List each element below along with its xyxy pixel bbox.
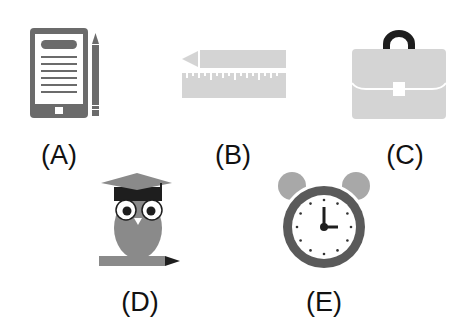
label-d: (D) — [110, 289, 170, 316]
pencil-and-ruler-icon — [170, 30, 300, 110]
tablet-with-pencil-icon — [0, 0, 120, 130]
graduate-owl-with-pencil-icon — [90, 165, 190, 275]
label-e: (E) — [294, 289, 354, 316]
briefcase-icon — [340, 20, 455, 130]
label-a: (A) — [29, 142, 89, 169]
label-b: (B) — [203, 142, 263, 169]
label-c: (C) — [375, 142, 435, 169]
alarm-clock-icon — [270, 165, 380, 280]
